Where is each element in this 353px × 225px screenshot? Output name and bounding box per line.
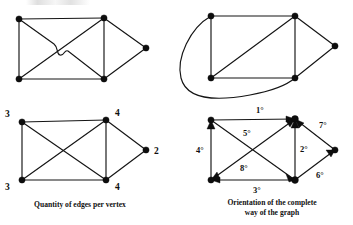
edge-d-e bbox=[106, 150, 146, 180]
vertex-dot bbox=[143, 147, 149, 153]
edge-a-b bbox=[22, 120, 106, 122]
vertex-dot bbox=[292, 75, 298, 81]
degree-label-vertex-c: 3 bbox=[5, 182, 10, 192]
vertex-dot bbox=[19, 119, 25, 125]
edge-b-e bbox=[295, 16, 335, 46]
degree-label-vertex-e: 2 bbox=[154, 146, 159, 156]
vertex-dot bbox=[19, 177, 25, 183]
vertex-dot bbox=[16, 76, 22, 82]
vertex-dot bbox=[101, 76, 107, 82]
edge-b-e bbox=[104, 18, 146, 48]
panel-bottom-left: 3 4 3 4 2 Quantity of edges per vertex bbox=[5, 108, 159, 209]
edge-order-label-8: 8° bbox=[240, 163, 248, 173]
edge-order-label-7: 7° bbox=[319, 120, 327, 130]
directed-edge-1-a-b bbox=[211, 119, 295, 120]
degree-label-vertex-b: 4 bbox=[115, 108, 120, 118]
vertex-dot bbox=[103, 117, 109, 123]
caption-bottom-left: Quantity of edges per vertex bbox=[34, 200, 126, 209]
vertex-dot bbox=[101, 15, 107, 21]
vertex-dot bbox=[292, 116, 299, 123]
vertex-dot bbox=[332, 43, 338, 49]
panel-top-left bbox=[16, 15, 149, 82]
caption-bottom-right-line-2: way of the graph bbox=[245, 208, 300, 217]
vertex-dot bbox=[208, 75, 214, 81]
edge-order-label-6: 6° bbox=[316, 170, 324, 180]
vertex-dot bbox=[332, 147, 338, 153]
edge-b-e bbox=[106, 120, 146, 150]
edge-a-b bbox=[19, 18, 104, 19]
edge-order-label-5: 5° bbox=[243, 128, 251, 138]
edge-d-e bbox=[104, 48, 146, 79]
panel-top-right bbox=[180, 13, 338, 98]
edge-d-e bbox=[295, 46, 335, 78]
edge-order-label-4: 4° bbox=[196, 145, 204, 155]
figure-canvas: 3 4 3 4 2 Quantity of edges per vertex bbox=[0, 0, 353, 225]
figure-root: 3 4 3 4 2 Quantity of edges per vertex bbox=[0, 0, 353, 225]
edge-c-b bbox=[19, 18, 104, 79]
vertex-dot bbox=[208, 177, 214, 183]
edge-c-b bbox=[211, 16, 295, 78]
vertex-dot bbox=[208, 13, 214, 19]
panel-bottom-right: 1° 2° 3° 4° 5° 6° 7° 8° Orientation of t… bbox=[196, 105, 338, 217]
edge-order-label-2: 2° bbox=[300, 144, 308, 154]
vertex-dot bbox=[143, 45, 149, 51]
vertex-dot bbox=[16, 16, 22, 22]
edge-order-label-3: 3° bbox=[253, 185, 261, 195]
vertex-dot bbox=[292, 13, 298, 19]
vertex-dot bbox=[103, 177, 109, 183]
vertex-dot bbox=[292, 177, 299, 184]
caption-bottom-right-line-1: Orientation of the complete bbox=[227, 198, 317, 207]
degree-label-vertex-d: 4 bbox=[115, 182, 120, 192]
edge-order-label-1: 1° bbox=[256, 105, 264, 115]
vertex-dot bbox=[208, 117, 214, 123]
degree-label-vertex-a: 3 bbox=[5, 109, 10, 119]
